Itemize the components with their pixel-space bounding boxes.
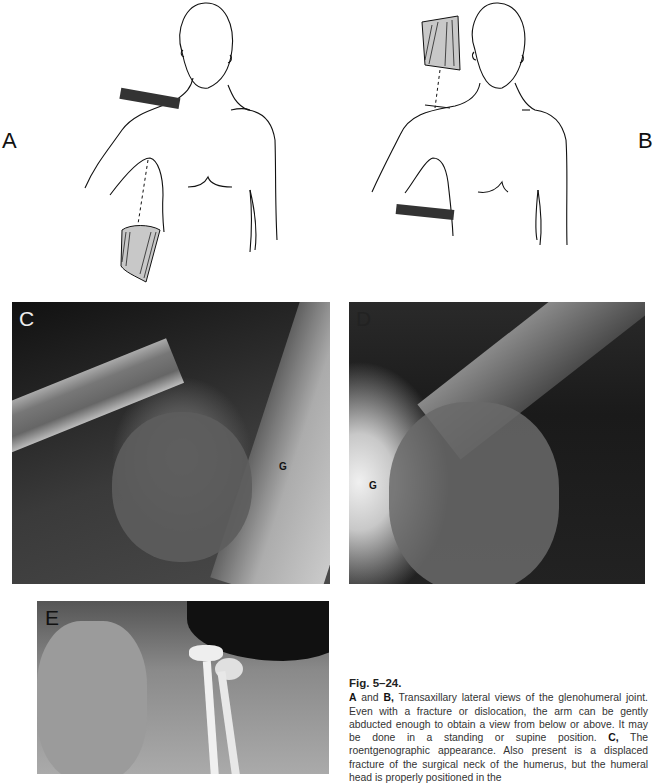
radiograph-e: E: [37, 601, 329, 774]
caption-text: and: [357, 692, 384, 703]
panel-label-d: D: [356, 307, 371, 331]
screw-shaft-1: [203, 661, 219, 774]
humeral-head-c: [112, 412, 252, 562]
xray-tube-b: [422, 16, 460, 70]
radiograph-c: C G: [12, 302, 330, 584]
panel-label-a: A: [2, 128, 17, 154]
bone-e: [37, 621, 147, 774]
panel-label-b: B: [638, 128, 653, 154]
screw-shaft-2: [217, 671, 240, 774]
panel-label-e: E: [45, 606, 59, 630]
illustration-a: A: [0, 0, 330, 290]
caption-ref-b: B,: [383, 692, 393, 703]
caption-ref-a: A: [349, 692, 357, 703]
panel-label-c: C: [19, 307, 34, 331]
illustration-b: B: [330, 0, 655, 290]
figure-caption: Fig. 5–24. A and B, Transaxillary latera…: [349, 677, 648, 784]
glenoid-marker-c: G: [279, 461, 287, 472]
glenoid-marker-d: G: [369, 480, 377, 491]
figure-number: Fig. 5–24.: [349, 677, 648, 690]
screw-head-1: [189, 645, 223, 661]
patient-diagram-a: [0, 0, 330, 290]
caption-text: Transaxillary lateral views of the gleno…: [349, 692, 648, 743]
caption-ref-c: C,: [608, 732, 618, 743]
radiograph-d: D G: [349, 302, 645, 584]
humeral-head-d: [389, 402, 559, 584]
detector-plate-b: [396, 204, 455, 220]
detector-plate-a: [119, 88, 180, 109]
patient-diagram-b: [330, 0, 655, 290]
